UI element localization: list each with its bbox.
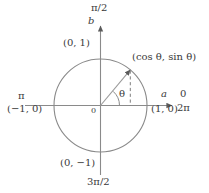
horizontal-axis-right-label-top: 0 [180,89,186,99]
unit-circle-figure: π/2 b (0, 1) (cos θ, sin θ) θ a 0 2π π (… [0,0,209,193]
vertical-axis-bottom-label: 3π/2 [87,177,110,187]
vertical-axis-top-label: π/2 [91,3,107,13]
vertical-axis-label: b [88,16,94,26]
angle-label: θ [119,89,125,99]
unit-circle-svg [0,0,209,193]
origin-label: 0 [91,107,96,115]
point-label-on-circle: (cos θ, sin θ) [132,52,196,62]
point-label-left: (−1, 0) [7,104,42,114]
horizontal-axis-left-label: π [18,91,25,101]
horizontal-axis-right-label-bottom: 2π [177,103,190,113]
point-label-bottom: (0, −1) [60,158,95,168]
radius-line [101,70,131,106]
point-label-right: (1, 0) [151,104,178,114]
point-label-top: (0, 1) [63,38,90,48]
horizontal-axis-label: a [161,89,167,99]
